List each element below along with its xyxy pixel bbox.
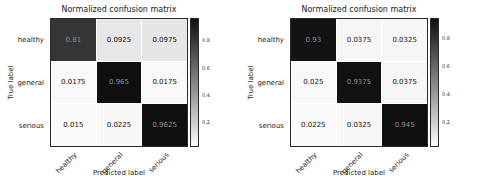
x-tick-label: general <box>320 151 365 185</box>
colorbar-tick-label: 0.2 <box>202 119 210 125</box>
matrix-cell: 0.0325 <box>337 104 382 146</box>
confusion-matrix-figure-right: Normalized confusion matrix True label 0… <box>240 0 479 185</box>
colorbar-tick-label: 0.2 <box>442 119 450 125</box>
matrix-cell: 0.81 <box>51 19 96 61</box>
matrix-cell: 0.93 <box>291 19 336 61</box>
y-tick-label: healthy <box>240 36 287 44</box>
confusion-matrices-screenshot: Normalized confusion matrix True label 0… <box>0 0 479 185</box>
heatmap-grid: 0.810.09250.09750.01750.9650.01750.0150.… <box>50 18 188 147</box>
matrix-cell: 0.025 <box>291 62 336 104</box>
matrix-cell: 0.9375 <box>337 62 382 104</box>
x-axis-label: Predicted label <box>289 169 429 177</box>
x-tick-label: serious <box>126 151 171 185</box>
matrix-cell: 0.965 <box>97 62 142 104</box>
matrix-cell: 0.9625 <box>142 104 187 146</box>
heatmap-grid: 0.930.03750.03250.0250.93750.03750.02250… <box>290 18 428 147</box>
x-tick-label: healthy <box>34 151 79 185</box>
colorbar <box>430 18 439 147</box>
colorbar-tick-label: 0.8 <box>442 35 450 41</box>
matrix-cell: 0.0325 <box>382 19 427 61</box>
matrix-cell: 0.0225 <box>291 104 336 146</box>
x-tick-label: healthy <box>274 151 319 185</box>
y-tick-label: healthy <box>0 36 47 44</box>
matrix-cell: 0.0175 <box>142 62 187 104</box>
y-tick-label: serious <box>0 122 47 130</box>
confusion-matrix-figure-left: Normalized confusion matrix True label 0… <box>0 0 239 185</box>
y-tick-label: general <box>240 79 287 87</box>
y-tick-label: general <box>0 79 47 87</box>
colorbar-tick-label: 0.6 <box>202 65 210 71</box>
chart-title: Normalized confusion matrix <box>260 5 458 14</box>
colorbar-tick-label: 0.6 <box>442 63 450 69</box>
colorbar-tick-label: 0.4 <box>442 91 450 97</box>
x-axis-label: Predicted label <box>49 169 189 177</box>
chart-title: Normalized confusion matrix <box>20 5 218 14</box>
matrix-cell: 0.0375 <box>382 62 427 104</box>
y-tick-label: serious <box>240 122 287 130</box>
matrix-cell: 0.0975 <box>142 19 187 61</box>
matrix-cell: 0.0925 <box>97 19 142 61</box>
colorbar <box>190 18 199 147</box>
matrix-cell: 0.0225 <box>97 104 142 146</box>
matrix-cell: 0.0175 <box>51 62 96 104</box>
matrix-cell: 0.945 <box>382 104 427 146</box>
matrix-cell: 0.0375 <box>337 19 382 61</box>
colorbar-tick-label: 0.8 <box>202 37 210 43</box>
matrix-cell: 0.015 <box>51 104 96 146</box>
x-tick-label: general <box>80 151 125 185</box>
x-tick-label: serious <box>366 151 411 185</box>
colorbar-tick-label: 0.4 <box>202 92 210 98</box>
